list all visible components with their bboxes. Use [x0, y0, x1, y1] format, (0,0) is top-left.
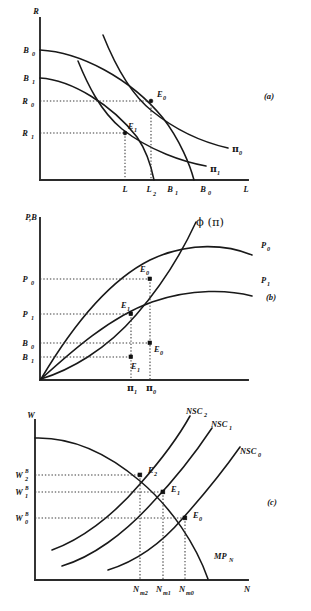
- panel-b-ytick-p0: P 0: [22, 275, 34, 286]
- panel-a-label-e0-base: E: [156, 90, 163, 99]
- panel-b-xtick-pi1: π 1: [127, 382, 137, 395]
- panel-c-xtick-nm2: N m2: [132, 585, 148, 596]
- panel-a-xtick-b0: B 0: [199, 185, 211, 196]
- panel-c-point-e0: [183, 516, 187, 520]
- panel-b-curve-label-phi: ϕ (π): [196, 215, 224, 229]
- panel-a-xtick-l2-sub: 2: [152, 191, 156, 197]
- panel-a-label-e0: E 0: [156, 90, 166, 101]
- panel-a-x-axis-label: L: [242, 185, 248, 194]
- panel-a-ytick-b0-base: B: [22, 46, 29, 55]
- panel-c-curve-mpn: [35, 438, 208, 579]
- panel-b-curve-p0: [41, 247, 252, 379]
- panel-b-label-e1-lower-sub: 1: [137, 367, 140, 373]
- panel-a-y-axis-label: R: [32, 7, 39, 16]
- panel-b-label-e1-upper-base: E: [120, 301, 127, 310]
- panel-a-curve-label-pi0: π 0: [232, 143, 242, 156]
- panel-b-label-e0-upper-base: E: [139, 265, 146, 274]
- panel-b-curve-label-p0-sub: 0: [267, 246, 270, 252]
- panel-b-ytick-p1-base: P: [22, 310, 28, 319]
- panel-c-ytick-w1: W 1 B: [15, 485, 29, 499]
- panel-b-label-e1-lower-base: E: [130, 362, 137, 371]
- panel-b-point-e1-lower: [129, 355, 133, 359]
- panel-c-ytick-w2-sub: 2: [24, 476, 28, 482]
- panel-b-label-e0-upper-sub: 0: [146, 270, 149, 276]
- panel-a-label-e1-base: E: [127, 122, 134, 131]
- panel-c-curve-label-nsc2: NSC 2: [185, 407, 207, 418]
- panel-a-ytick-r0-sub: 0: [31, 102, 34, 108]
- panel-c-label-e1-sub: 1: [177, 490, 180, 496]
- panel-c-xtick-nm2-base: N: [132, 585, 140, 594]
- panel-c-ytick-w2-sup: B: [24, 468, 29, 474]
- panel-c-ytick-w1-sup: B: [24, 485, 29, 491]
- panel-c-tag: (c): [267, 497, 277, 507]
- panel-c-xtick-nm1: N m1: [155, 585, 171, 596]
- panel-a-xtick-b1-sub: 1: [175, 190, 178, 196]
- panel-c-label-e2-base: E: [147, 466, 154, 475]
- panel-a-xtick-b1-base: B: [166, 185, 173, 194]
- panel-b: P,B P 0 P 1 B 0 B 1 π 1 π 0 P 0: [21, 213, 276, 395]
- panel-b-curve-label-p1: P 1: [261, 276, 270, 287]
- panel-a-tag: (a): [264, 91, 274, 101]
- panel-a-curve-label-pi1-base: π: [210, 163, 217, 174]
- panel-a-xtick-b1: B 1: [166, 185, 178, 196]
- panel-a-point-e0: [149, 99, 153, 103]
- panel-c-point-e1: [161, 490, 165, 494]
- panel-a-ytick-r1-base: R: [21, 129, 28, 138]
- panel-c-curve-label-nsc0: NSC 0: [239, 447, 261, 458]
- panel-c-ytick-w1-sub: 1: [25, 493, 28, 499]
- panel-c-point-e2: [138, 473, 142, 477]
- panel-c-curve-label-nsc1-base: NSC: [210, 420, 228, 429]
- panel-a-xtick-l-base: L: [121, 185, 127, 194]
- panel-a-label-e1-sub: 1: [134, 127, 137, 133]
- panel-a-point-e1: [123, 131, 127, 135]
- panel-c-xtick-nm2-sub: m2: [140, 590, 148, 596]
- panel-b-label-e1-upper: E 1: [120, 301, 130, 312]
- panel-b-ytick-p0-base: P: [22, 275, 28, 284]
- figure-svg: R L B 0 B 1 R 0 R 1 L L 2 B 1: [0, 0, 311, 611]
- panel-a-curve-label-pi1-sub: 1: [217, 170, 220, 176]
- panel-c: W N W 2 B W 1 B W 0 B N m2 N m1 N m0: [15, 407, 277, 596]
- panel-a-curve-pi1: [78, 61, 206, 166]
- panel-b-ytick-b0: B 0: [21, 339, 34, 350]
- panel-b-point-e0-lower: [148, 341, 152, 345]
- panel-c-curve-label-nsc0-sub: 0: [258, 452, 261, 458]
- panel-b-curve-label-p0: P 0: [261, 241, 270, 252]
- panel-a-xtick-b0-base: B: [199, 185, 206, 194]
- panel-a-curve-label-pi0-sub: 0: [239, 150, 242, 156]
- panel-a-ytick-r0: R 0: [21, 97, 34, 108]
- panel-b-ytick-b1: B 1: [21, 353, 34, 364]
- panel-b-ytick-p1: P 1: [22, 310, 34, 321]
- panel-c-ytick-w0-base: W: [15, 514, 23, 523]
- panel-b-xtick-pi0: π 0: [146, 382, 156, 395]
- panel-a-curve-label-pi1: π 1: [210, 163, 220, 176]
- panel-c-xtick-nm0-sub: m0: [186, 590, 194, 596]
- panel-c-label-e2-sub: 2: [153, 471, 157, 477]
- panel-b-xtick-pi0-sub: 0: [153, 389, 156, 395]
- panel-a-ytick-b0: B 0: [22, 46, 35, 57]
- panel-c-label-e2: E 2: [147, 466, 157, 477]
- panel-c-xtick-nm1-base: N: [155, 585, 163, 594]
- figure-container: R L B 0 B 1 R 0 R 1 L L 2 B 1: [0, 0, 311, 611]
- panel-b-ytick-b1-sub: 1: [31, 358, 34, 364]
- panel-c-xtick-nm1-sub: m1: [163, 590, 171, 596]
- panel-b-tag: (b): [266, 292, 276, 302]
- panel-a-ytick-b0-sub: 0: [32, 51, 35, 57]
- panel-a-xtick-l2: L 2: [145, 185, 156, 197]
- panel-a: R L B 0 B 1 R 0 R 1 L L 2 B 1: [21, 7, 274, 197]
- panel-b-label-e1-upper-sub: 1: [127, 306, 130, 312]
- panel-a-xtick-b0-sub: 0: [208, 190, 211, 196]
- panel-b-label-e0-upper: E 0: [139, 265, 149, 276]
- panel-a-label-e0-sub: 0: [163, 95, 166, 101]
- panel-a-xtick-l: L: [121, 185, 127, 194]
- panel-c-ytick-w2-base: W: [15, 471, 23, 480]
- panel-b-xtick-pi0-base: π: [146, 382, 153, 393]
- panel-b-curve-label-p1-sub: 1: [267, 281, 270, 287]
- panel-b-xtick-pi1-base: π: [127, 382, 134, 393]
- panel-b-ytick-p1-sub: 1: [31, 315, 34, 321]
- panel-a-xtick-l2-base: L: [145, 185, 151, 194]
- panel-b-y-axis-label: P,B: [25, 213, 37, 222]
- panel-c-curve-label-mpn: MP N: [213, 552, 234, 563]
- panel-c-label-e1: E 1: [170, 485, 180, 496]
- panel-c-ytick-w0: W 0 B: [15, 511, 29, 525]
- panel-c-x-axis-label: N: [243, 585, 251, 594]
